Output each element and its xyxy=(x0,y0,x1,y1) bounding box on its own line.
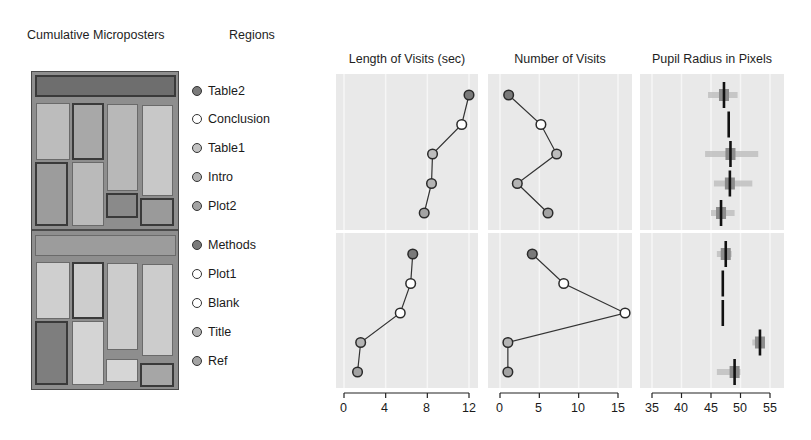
chart-canvas xyxy=(0,0,811,440)
